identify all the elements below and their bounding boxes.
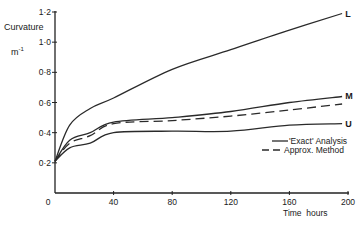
y-tick-label: 0·4 [39,128,52,138]
x-tick-label: 120 [224,197,238,207]
y-tick-label: 0·2 [39,158,52,168]
x-tick-label: 80 [167,197,177,207]
curve-labels: LMU [345,9,353,129]
origin-label: 0 [46,197,51,207]
y-tick-label: 1·2 [39,7,52,17]
legend-label-approx: Approx. Method [284,145,344,155]
curve-label-l: L [345,9,351,19]
x-tick-label: 160 [282,197,296,207]
curve-label-m: M [345,91,353,101]
line-chart: 0·20·40·60·81·01·204080120160200 LMU 'Ex… [0,0,364,226]
x-tick-label: 40 [109,197,119,207]
y-tick-label: 0·6 [39,98,52,108]
y-tick-label: 1·0 [39,37,52,47]
legend: 'Exact' AnalysisApprox. Method [262,136,347,155]
x-tick-label: 200 [341,197,355,207]
curve-label-u: U [345,119,352,129]
x-axis-title: Time hours [283,208,328,218]
y-tick-label: 0·8 [39,67,52,77]
axes: 0·20·40·60·81·01·204080120160200 [39,7,356,207]
